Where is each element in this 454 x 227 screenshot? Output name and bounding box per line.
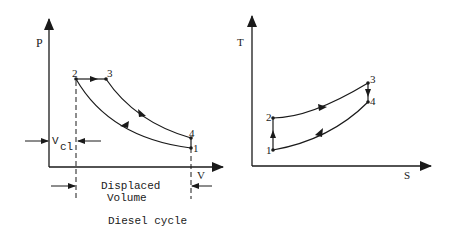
pv-x-axis-label: V xyxy=(197,169,205,181)
ts-x-axis-label: S xyxy=(404,169,410,181)
arrow-icon xyxy=(120,121,129,128)
diesel-cycle-figure: P V 2 3 4 1 V cl Displaced Volume xyxy=(0,0,454,227)
ts-point-2-label: 2 xyxy=(266,111,272,123)
arrow-icon xyxy=(315,128,323,137)
ts-y-axis-label: T xyxy=(237,36,244,48)
pv-y-axis-label: P xyxy=(36,36,43,50)
displaced-volume-label-line1: Displaced xyxy=(101,180,160,192)
ts-point-1-dot xyxy=(271,148,275,152)
arrow-icon xyxy=(90,76,98,82)
ts-process-2-3 xyxy=(273,83,368,118)
vcl-label-sub: cl xyxy=(60,141,73,153)
vcl-label-main: V xyxy=(52,135,59,147)
ts-point-4-label: 4 xyxy=(370,95,376,107)
arrow-icon xyxy=(270,130,276,138)
ts-point-2-dot xyxy=(271,116,275,120)
ts-diagram: T S 1 2 3 4 xyxy=(237,16,431,181)
ts-point-1-label: 1 xyxy=(266,144,272,156)
pv-point-3-label: 3 xyxy=(107,67,113,79)
pv-point-2-label: 2 xyxy=(72,67,78,79)
pv-point-1-label: 1 xyxy=(193,142,199,154)
ts-point-3-label: 3 xyxy=(370,73,376,85)
pv-point-4-label: 4 xyxy=(189,127,195,139)
pv-diagram: P V 2 3 4 1 V cl Displaced Volume xyxy=(25,19,223,204)
figure-caption: Diesel cycle xyxy=(108,215,187,227)
pv-process-3-4 xyxy=(106,79,191,138)
arrow-icon xyxy=(138,109,146,117)
pv-process-1-2 xyxy=(76,79,191,148)
displaced-volume-label-line2: Volume xyxy=(107,192,147,204)
